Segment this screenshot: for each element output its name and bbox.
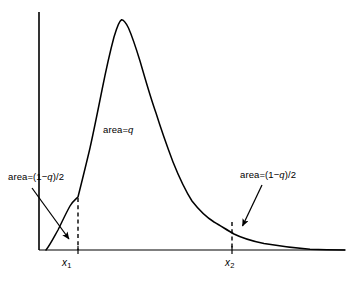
area-label-left-prefix: area=(1− — [8, 171, 47, 182]
area-label-right-suffix: )/2 — [285, 169, 296, 180]
density-curve — [46, 20, 345, 250]
area-label-center: area=q — [103, 125, 133, 135]
x-axis-tick-label-x1: x1 — [62, 258, 71, 268]
area-label-left-suffix: )/2 — [53, 171, 64, 182]
area-label-right-prefix: area=(1− — [240, 169, 279, 180]
area-label-center-symbol: q — [128, 124, 133, 135]
left-tail-arrow — [32, 188, 69, 239]
plot-canvas — [0, 0, 355, 285]
area-label-left-tail: area=(1−q)/2 — [8, 172, 64, 182]
x-axis-tick-label-x2: x2 — [225, 258, 234, 268]
x2-subscript: 2 — [230, 261, 234, 270]
area-label-right-tail: area=(1−q)/2 — [240, 170, 296, 180]
right-tail-arrow — [243, 185, 263, 226]
area-label-center-prefix: area= — [103, 124, 128, 135]
distribution-figure: area=(1−q)/2 area=q area=(1−q)/2 x1 x2 — [0, 0, 355, 285]
x1-subscript: 1 — [67, 261, 71, 270]
